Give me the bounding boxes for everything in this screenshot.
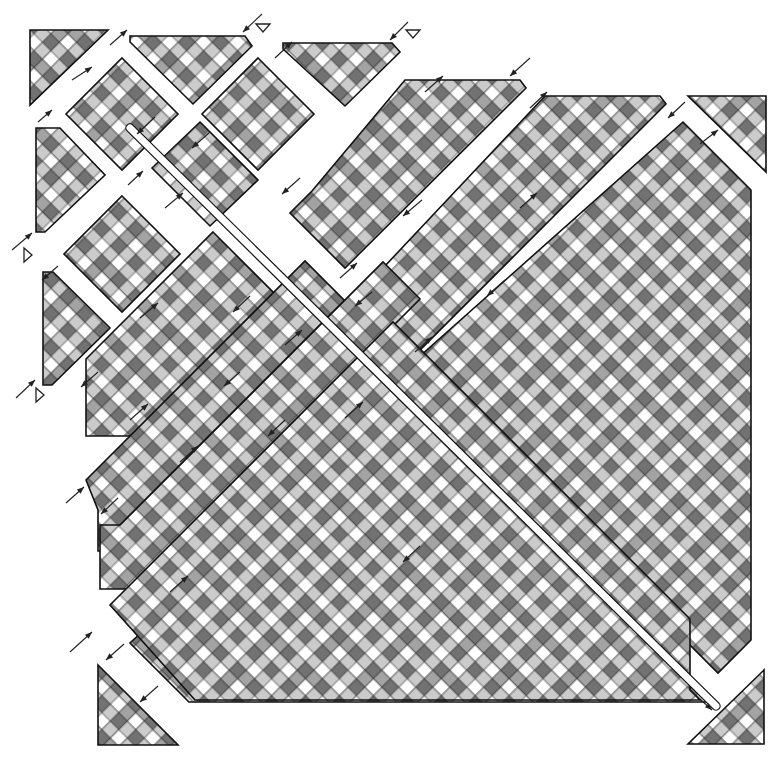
arrow-icon	[668, 102, 685, 118]
top-strip-piece-2	[283, 43, 400, 106]
arrow-icon	[72, 67, 92, 80]
corner-bottom-right-triangle	[688, 670, 764, 744]
arrow-icon	[140, 686, 158, 702]
arrow-icon	[38, 110, 52, 122]
arrow-icon	[70, 632, 92, 652]
arrow-icon	[66, 487, 84, 503]
arrow-icon	[243, 14, 262, 32]
arrow-icon	[16, 380, 35, 398]
tiling-diagram	[0, 0, 774, 765]
arrow-icon	[510, 58, 530, 76]
triangle-marker-icon	[24, 248, 32, 262]
arrow-icon	[106, 644, 124, 660]
triangle-marker-icon	[406, 30, 420, 38]
arrow-icon	[12, 233, 32, 250]
arrow-icon	[165, 193, 183, 208]
arrow-icon	[700, 130, 718, 144]
arrow-icon	[110, 30, 127, 45]
triangle-marker-icon	[36, 388, 44, 402]
triangle-marker-icon	[256, 24, 270, 32]
arrow-icon	[390, 22, 408, 40]
arrow-icon	[128, 171, 143, 185]
arrow-icon	[282, 178, 300, 194]
